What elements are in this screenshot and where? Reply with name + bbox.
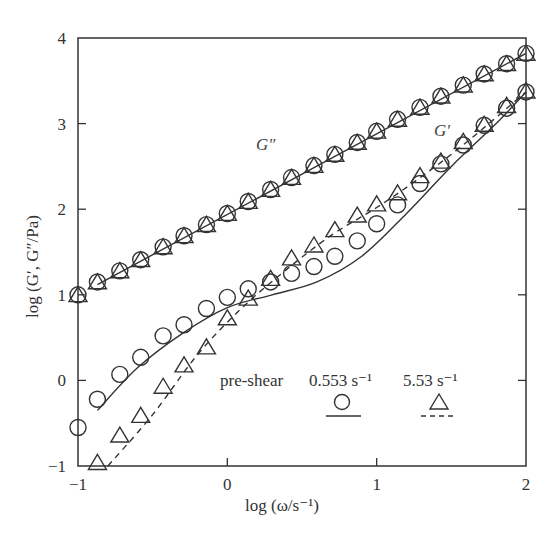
circle-marker bbox=[176, 317, 192, 333]
y-tick-label: 4 bbox=[58, 29, 67, 48]
y-tick-label: 2 bbox=[58, 200, 67, 219]
g-double-prime-label: G″ bbox=[256, 135, 276, 154]
y-tick-label: 1 bbox=[58, 286, 67, 305]
triangle-marker bbox=[218, 310, 236, 325]
fit-line bbox=[97, 92, 526, 410]
x-tick-label: 1 bbox=[372, 475, 381, 494]
legend-label-0553: 0.553 s⁻¹ bbox=[309, 371, 372, 390]
circle-marker bbox=[433, 156, 449, 172]
y-tick-label: −1 bbox=[48, 457, 66, 476]
triangle-marker bbox=[368, 196, 386, 211]
chart-canvas: −1012−101234 G″ G′ pre-shear 0.553 s⁻¹ 5… bbox=[0, 0, 555, 536]
x-tick-label: 0 bbox=[223, 475, 232, 494]
circle-marker bbox=[198, 300, 214, 316]
x-tick-label: −1 bbox=[69, 475, 87, 494]
y-axis-title: log (G′, G″/Pa) bbox=[23, 215, 42, 318]
plot-border bbox=[78, 38, 526, 466]
triangle-marker bbox=[154, 378, 172, 393]
plot-frame bbox=[78, 38, 526, 466]
triangle-marker bbox=[175, 357, 193, 372]
g-prime-label: G′ bbox=[434, 121, 450, 140]
circle-marker bbox=[369, 216, 385, 232]
legend: pre-shear 0.553 s⁻¹ 5.53 s⁻¹ bbox=[220, 371, 458, 416]
circle-marker bbox=[284, 265, 300, 281]
triangle-marker bbox=[305, 237, 323, 252]
x-tick-label: 2 bbox=[522, 475, 531, 494]
circle-marker bbox=[112, 366, 128, 382]
legend-title: pre-shear bbox=[220, 371, 284, 390]
circle-marker bbox=[219, 289, 235, 305]
fit-curves bbox=[97, 53, 526, 466]
triangle-marker bbox=[283, 250, 301, 265]
circle-marker bbox=[455, 137, 471, 153]
axis-ticks: −1012−101234 bbox=[48, 29, 530, 494]
triangle-marker bbox=[111, 427, 129, 442]
y-tick-label: 0 bbox=[58, 371, 67, 390]
y-tick-label: 3 bbox=[58, 115, 67, 134]
circle-marker bbox=[327, 248, 343, 264]
triangle-marker bbox=[132, 407, 150, 422]
circle-marker bbox=[349, 233, 365, 249]
circle-marker bbox=[306, 259, 322, 275]
circle-marker bbox=[133, 349, 149, 365]
triangle-marker bbox=[88, 454, 106, 469]
circle-marker bbox=[155, 328, 171, 344]
circle-marker bbox=[89, 391, 105, 407]
legend-triangle-marker bbox=[430, 394, 448, 409]
legend-circle-marker bbox=[335, 395, 350, 410]
legend-label-553: 5.53 s⁻¹ bbox=[403, 371, 458, 390]
x-axis-title: log (ω/s⁻¹) bbox=[245, 496, 319, 515]
